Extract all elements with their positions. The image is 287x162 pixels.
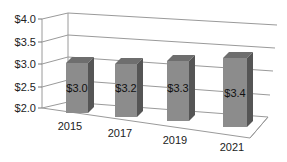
data-label: $3.2 — [115, 82, 136, 94]
y-tick-label: $3.5 — [15, 36, 36, 48]
y-tick-label: $4.0 — [15, 13, 36, 25]
x-tick-label: 2015 — [58, 120, 82, 132]
x-axis-labels: 2015 2017 2019 2021 — [58, 120, 244, 153]
y-tick-label: $2.5 — [15, 81, 36, 93]
data-label: $3.0 — [66, 82, 87, 94]
chart: $4.0 $3.5 $3.0 $2.5 $2.0 $3.0 $3.2 $3.3 … — [0, 0, 287, 162]
y-tick-label: $2.0 — [15, 102, 36, 114]
y-tick-label: $3.0 — [15, 58, 36, 70]
x-tick-label: 2017 — [108, 127, 132, 139]
data-label: $3.4 — [224, 87, 245, 99]
x-tick-label: 2021 — [220, 141, 244, 153]
chart-plot: $4.0 $3.5 $3.0 $2.5 $2.0 $3.0 $3.2 $3.3 … — [0, 0, 287, 162]
x-tick-label: 2019 — [163, 134, 187, 146]
y-axis-labels: $4.0 $3.5 $3.0 $2.5 $2.0 — [15, 13, 36, 114]
data-label: $3.3 — [167, 82, 188, 94]
y-axis-ticks — [38, 19, 42, 108]
